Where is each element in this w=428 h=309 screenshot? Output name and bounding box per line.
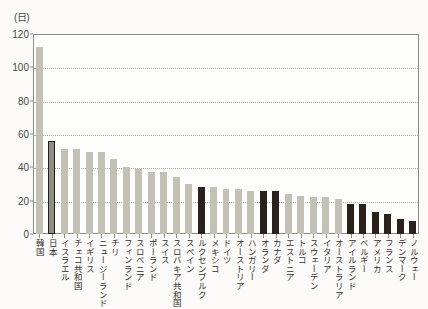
y-axis-tick-label: 20 [18, 195, 29, 206]
x-axis-tick-label: オーストラリア [334, 239, 343, 299]
bar [48, 141, 55, 234]
x-axis-tick-mark [301, 234, 302, 238]
x-axis-tick-mark [64, 234, 65, 238]
bar-slot [409, 34, 416, 234]
bar-chart-figure: (日) 020406080100120 韓国日本イスラエルチェコ共和国イギリスニ… [0, 0, 428, 309]
bar-slot [397, 34, 404, 234]
bar [409, 221, 416, 234]
x-axis-tick-label: アイルランド [346, 239, 355, 291]
x-axis-tick-label: アメリカ [371, 239, 380, 273]
x-axis-tick-mark [89, 234, 90, 238]
x-axis-tick-label: ルクセンブルク [197, 239, 206, 299]
bar [110, 159, 117, 234]
x-axis-tick-label: 日本 [47, 239, 56, 256]
bar-slot [48, 34, 55, 234]
x-axis-tick-mark [388, 234, 389, 238]
x-axis-tick-label: フィンランド [122, 239, 131, 291]
bar-slot [272, 34, 279, 234]
bar-slot [297, 34, 304, 234]
bar [335, 199, 342, 234]
bar [359, 204, 366, 234]
x-axis-tick-mark [363, 234, 364, 238]
bar [223, 189, 230, 234]
bar [36, 47, 43, 234]
x-axis-tick-mark [201, 234, 202, 238]
x-axis-tick-mark [375, 234, 376, 238]
bar [397, 219, 404, 234]
bar-slot [86, 34, 93, 234]
x-axis-tick-mark [139, 234, 140, 238]
bars-layer [33, 34, 419, 234]
x-axis-tick-mark [263, 234, 264, 238]
bar [347, 204, 354, 234]
x-axis-tick-label: スイス [159, 239, 168, 265]
bar-slot [372, 34, 379, 234]
x-axis-tick-label: カナダ [272, 239, 281, 265]
bar [160, 172, 167, 234]
x-axis-tick-mark [276, 234, 277, 238]
bar [285, 194, 292, 234]
bar [372, 212, 379, 234]
bar [235, 189, 242, 234]
x-axis-tick-label: スロバキア共和国 [172, 239, 181, 308]
x-axis-tick-label: ポーランド [147, 239, 156, 282]
x-axis-tick-label: フランス [384, 239, 393, 273]
bar [272, 191, 279, 234]
x-axis-tick-mark [338, 234, 339, 238]
bar-slot [98, 34, 105, 234]
bar-slot [260, 34, 267, 234]
x-axis-tick-mark [313, 234, 314, 238]
bar [86, 152, 93, 234]
bar-slot [322, 34, 329, 234]
x-axis-tick-label: デンマーク [396, 239, 405, 282]
x-axis-tick-label: イタリア [321, 239, 330, 273]
bar [61, 149, 68, 234]
x-axis-tick-label: ニュージーランド [97, 239, 106, 308]
x-axis-tick-label: スペイン [184, 239, 193, 273]
x-axis-tick-label: スウェーデン [309, 239, 318, 291]
x-axis-tick-label: チェコ共和国 [72, 239, 81, 291]
y-axis-tick-label: 60 [18, 129, 29, 140]
x-axis-tick-label: オーストリア [234, 239, 243, 291]
bar-slot [173, 34, 180, 234]
x-axis-tick-mark [77, 234, 78, 238]
x-axis-tick-label: スロベニア [135, 239, 144, 282]
bar-slot [73, 34, 80, 234]
x-axis-tick-label: エストニア [284, 239, 293, 282]
bar-slot [36, 34, 43, 234]
y-axis: 020406080100120 [0, 34, 33, 234]
bar-slot [123, 34, 130, 234]
bar [198, 187, 205, 234]
bar [135, 169, 142, 234]
bar [260, 191, 267, 234]
x-axis-tick-mark [39, 234, 40, 238]
x-axis-tick-mark [238, 234, 239, 238]
bar-slot [310, 34, 317, 234]
bar-slot [359, 34, 366, 234]
bar-slot [135, 34, 142, 234]
x-axis-tick-marks [33, 234, 419, 238]
bar-slot [61, 34, 68, 234]
x-axis-tick-label: メキシコ [209, 239, 218, 273]
bar [185, 184, 192, 234]
x-axis-tick-mark [114, 234, 115, 238]
x-axis-tick-mark [126, 234, 127, 238]
bar-slot [185, 34, 192, 234]
bar-slot [210, 34, 217, 234]
x-axis-tick-mark [326, 234, 327, 238]
x-axis-tick-label: ノルウェー [409, 239, 418, 282]
bar-slot [247, 34, 254, 234]
bar-slot [235, 34, 242, 234]
bar-slot [384, 34, 391, 234]
bar [322, 197, 329, 234]
bar [384, 214, 391, 234]
x-axis-tick-mark [101, 234, 102, 238]
bar [98, 152, 105, 234]
bar-slot [160, 34, 167, 234]
bar [210, 187, 217, 234]
bar-slot [198, 34, 205, 234]
x-axis-tick-mark [288, 234, 289, 238]
x-axis-tick-mark [226, 234, 227, 238]
bar-slot [285, 34, 292, 234]
x-axis-tick-mark [413, 234, 414, 238]
